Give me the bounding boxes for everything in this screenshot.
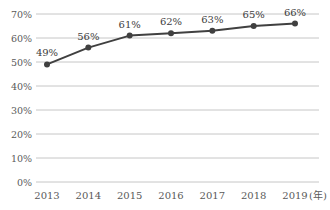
data-point-label: 61% <box>119 19 141 30</box>
x-tick-label: 2019 <box>282 190 307 201</box>
x-tick-label: 2015 <box>117 190 142 201</box>
x-tick-label: 2017 <box>200 190 225 201</box>
data-point-marker <box>251 23 257 29</box>
data-point-marker <box>85 45 91 51</box>
data-point-marker <box>292 21 298 27</box>
y-tick-label: 60% <box>11 33 32 44</box>
line-chart: 0%10%20%30%40%50%60%70%20132014201520162… <box>0 0 330 210</box>
data-point-marker <box>209 28 215 34</box>
x-axis-unit-label: (年) <box>309 189 327 201</box>
y-tick-label: 40% <box>11 81 32 92</box>
x-tick-label: 2018 <box>241 190 266 201</box>
data-point-label: 49% <box>36 47 58 58</box>
y-tick-label: 10% <box>11 153 32 164</box>
x-tick-label: 2016 <box>158 190 183 201</box>
data-point-label: 62% <box>160 16 182 27</box>
data-point-marker <box>44 61 50 67</box>
data-point-marker <box>168 30 174 36</box>
y-tick-label: 50% <box>11 57 32 68</box>
x-tick-label: 2014 <box>76 190 101 201</box>
y-tick-label: 30% <box>11 105 32 116</box>
data-point-label: 66% <box>284 7 306 18</box>
y-tick-label: 20% <box>11 129 32 140</box>
data-point-label: 65% <box>243 9 265 20</box>
y-tick-label: 0% <box>17 177 32 188</box>
x-tick-label: 2013 <box>34 190 59 201</box>
data-point-label: 63% <box>201 14 223 25</box>
data-point-marker <box>127 33 133 39</box>
y-tick-label: 70% <box>11 9 32 20</box>
data-point-label: 56% <box>77 31 99 42</box>
line-chart-canvas: 0%10%20%30%40%50%60%70%20132014201520162… <box>0 0 330 210</box>
